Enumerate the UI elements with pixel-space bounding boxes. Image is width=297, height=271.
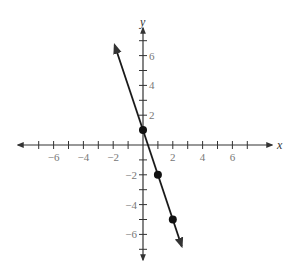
axes: [18, 28, 272, 260]
y-tick-label: 6: [149, 50, 155, 62]
data-point: [169, 216, 177, 224]
x-axis-label: x: [276, 138, 283, 152]
data-point: [139, 126, 147, 134]
x-tick-label: 4: [200, 151, 206, 163]
coordinate-plane: −6−4−2246642−2−4−6 x y: [0, 0, 297, 271]
y-axis-label: y: [139, 15, 146, 29]
x-tick-label: −2: [107, 151, 119, 163]
x-tick-label: 2: [170, 151, 176, 163]
x-tick-label: 6: [230, 151, 236, 163]
data-point: [154, 171, 162, 179]
y-tick-label: 4: [149, 79, 155, 91]
y-tick-label: 2: [149, 109, 155, 121]
y-tick-label: −6: [125, 228, 137, 240]
x-tick-label: −4: [78, 151, 90, 163]
x-tick-label: −6: [48, 151, 60, 163]
y-tick-label: −2: [125, 169, 137, 181]
y-tick-label: −4: [125, 199, 137, 211]
